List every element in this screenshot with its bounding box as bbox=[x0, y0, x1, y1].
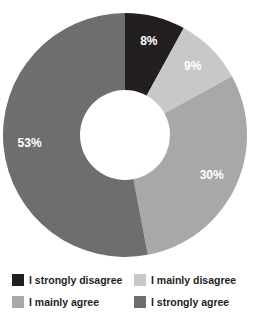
legend-swatch-mainly-disagree bbox=[134, 274, 146, 286]
legend-label-mainly-disagree: I mainly disagree bbox=[151, 275, 236, 286]
legend-item-strongly-agree[interactable]: I strongly agree bbox=[134, 292, 253, 312]
chart-legend: I strongly disagree I mainly disagree I … bbox=[0, 270, 253, 318]
legend-label-mainly-agree: I mainly agree bbox=[29, 297, 99, 308]
donut-svg: 8%9%30%53% bbox=[0, 0, 253, 266]
legend-item-mainly-disagree[interactable]: I mainly disagree bbox=[134, 270, 253, 290]
legend-swatch-strongly-agree bbox=[134, 296, 146, 308]
slice-value-label: 9% bbox=[184, 59, 202, 73]
legend-item-mainly-agree[interactable]: I mainly agree bbox=[12, 292, 134, 312]
slice-value-label: 30% bbox=[200, 168, 224, 182]
legend-item-strongly-disagree[interactable]: I strongly disagree bbox=[12, 270, 134, 290]
legend-swatch-mainly-agree bbox=[12, 296, 24, 308]
slice-value-label: 53% bbox=[18, 136, 42, 150]
donut-plot-area: 8%9%30%53% bbox=[0, 0, 253, 266]
legend-label-strongly-disagree: I strongly disagree bbox=[29, 275, 122, 286]
slice-value-label: 8% bbox=[140, 34, 158, 48]
legend-swatch-strongly-disagree bbox=[12, 274, 24, 286]
legend-label-strongly-agree: I strongly agree bbox=[151, 297, 229, 308]
donut-hole bbox=[80, 90, 170, 180]
donut-chart: 8%9%30%53% I strongly disagree I mainly … bbox=[0, 0, 253, 321]
